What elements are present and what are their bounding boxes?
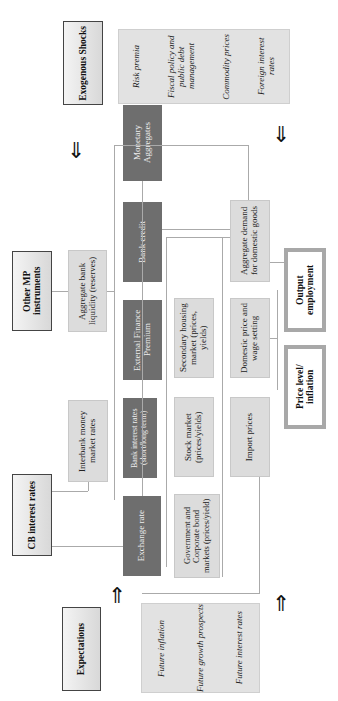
exogenous-shocks-list: Foreign interest rates Commodity prices … (118, 29, 290, 104)
exo-item-commodity-prices: Commodity prices (222, 34, 232, 100)
exp-item-future-inflation: Future inflation (157, 620, 167, 677)
domestic-price-wage-node: Domestic price and wage setting (230, 298, 270, 378)
gov-corporate-bond-markets-node: Government and Corporate bond markets (p… (174, 494, 220, 578)
exchange-rate-node: Exchange rate (123, 496, 161, 576)
expectations-header: Expectations (62, 607, 101, 691)
connector-liquidity (52, 291, 68, 292)
connector-asset-ad (166, 237, 230, 238)
connector-cb-interbank-v (88, 482, 89, 491)
bank-interest-rates-node: Bank interest rates (short/long term) (123, 398, 157, 478)
other-mp-instruments-header: Other MP instruments (12, 251, 52, 331)
output-employment-node: Output employment (284, 248, 326, 332)
connector-asset-spine (166, 237, 167, 567)
connector-bank-chain (142, 181, 143, 496)
connector-exchange-bottom (142, 593, 260, 594)
exogenous-shocks-header: Exogenous Shocks (63, 21, 103, 105)
down-arrow-left: ⇓ (67, 140, 85, 162)
exo-item-fiscal-policy: Fiscal policy and public debt management (167, 30, 197, 103)
exo-item-risk-premia: Risk premia (132, 45, 142, 88)
connector-exchange-import (259, 477, 260, 593)
aggregate-bank-liquidity-node: Aggregate bank liquidity (reserves) (68, 250, 107, 332)
connector-right-spine (222, 237, 223, 577)
interbank-money-market-rates-node: Interbank money market rates (68, 400, 108, 482)
monetary-aggregates-node: Monetary Aggregates (123, 105, 162, 181)
aggregate-demand-node: Aggregate demand for domestic goods (230, 200, 270, 282)
connector-liquidity-spine (107, 291, 114, 292)
connector-bank-credit-ad (162, 229, 230, 230)
connector-ad-output (270, 262, 284, 263)
connector-ma-to-ad (248, 145, 249, 200)
connector-dp-outcomes (270, 338, 277, 339)
price-level-inflation-node: Price level/ inflation (284, 345, 326, 429)
down-arrow-right: ⇓ (272, 124, 290, 146)
up-arrow-left: ⇑ (108, 585, 126, 607)
exp-item-future-growth: Future growth prospects (196, 604, 206, 692)
exp-item-future-interest-rates: Future interest rates (235, 611, 245, 684)
connector-cb-exchange (52, 546, 123, 547)
connector-cb-interbank (52, 491, 88, 492)
exo-item-foreign-interest-rates: Foreign interest rates (257, 30, 277, 103)
cb-interest-rates-header: CB interest rates (12, 474, 52, 556)
connector-spine-left (114, 145, 115, 500)
expectations-list: Future interest rates Future growth pros… (141, 603, 260, 693)
up-arrow-right: ⇑ (272, 593, 290, 615)
secondary-housing-market-node: Secondary housing market (prices, yields… (174, 298, 214, 378)
connector-top (114, 145, 248, 146)
import-prices-node: Import prices (230, 397, 270, 477)
stock-market-node: Stock market (prices/yields) (174, 397, 214, 477)
connector-prices-outcomes (277, 290, 278, 390)
